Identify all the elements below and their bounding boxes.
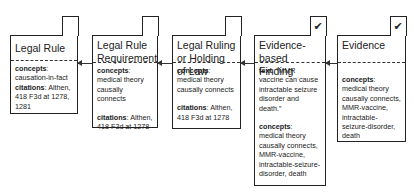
node-body: text: “MMR vaccine can cause intractable… — [255, 63, 325, 181]
concepts-value: medical theory causally connects — [97, 75, 144, 103]
checkbox-empty-icon[interactable] — [225, 16, 242, 36]
checkbox-empty-icon[interactable] — [62, 16, 79, 36]
node-title: Legal Rule Requirement — [93, 36, 157, 63]
node-title: Evidence — [338, 36, 405, 63]
concepts-value: causation-in-fact — [15, 73, 68, 82]
concepts-value: medical theory causally connects — [177, 75, 234, 93]
node-legal-rule[interactable]: Legal Rule concepts: causation-in-fact c… — [10, 35, 78, 114]
node-evidence[interactable]: ✔ Evidence concepts: medical theory caus… — [337, 35, 406, 142]
edge-arrow — [78, 63, 92, 64]
citations-label: citations — [15, 83, 45, 92]
concepts-label: concepts — [15, 64, 47, 73]
node-body: concepts: causation-in-fact citations: A… — [11, 61, 77, 114]
node-legal-ruling[interactable]: Legal Ruling or Holding of Law concepts:… — [172, 35, 241, 129]
edge-arrow — [326, 63, 337, 64]
checkbox-empty-icon[interactable] — [142, 16, 159, 36]
node-body: concepts: medical theory causally connec… — [93, 63, 157, 134]
node-body: concepts: medical theory causally connec… — [338, 63, 405, 144]
checkmark-icon[interactable]: ✔ — [310, 16, 327, 36]
edge-arrow — [158, 63, 172, 64]
concepts-label: concepts — [342, 75, 374, 84]
text-label: text — [259, 66, 272, 75]
node-title: Legal Ruling or Holding of Law — [173, 36, 240, 63]
citations-label: citations — [177, 103, 207, 112]
checkmark-icon[interactable]: ✔ — [390, 16, 407, 36]
edge-arrow — [241, 63, 254, 64]
citations-label: citations — [97, 113, 127, 122]
node-body: concepts: medical theory causally connec… — [173, 63, 240, 125]
concepts-value: medical theory causally connects, MMR-va… — [342, 84, 401, 140]
concepts-label: concepts — [177, 66, 209, 75]
concepts-label: concepts — [259, 122, 291, 131]
concepts-value: medical theory causally connects, MMR-va… — [259, 131, 320, 178]
concepts-label: concepts — [97, 66, 129, 75]
node-legal-rule-requirement[interactable]: Legal Rule Requirement concepts: medical… — [92, 35, 158, 128]
node-title: Legal Rule — [11, 36, 77, 61]
node-title: Evidence-based Finding — [255, 36, 325, 63]
node-evidence-based-finding[interactable]: ✔ Evidence-based Finding text: “MMR vacc… — [254, 35, 326, 186]
